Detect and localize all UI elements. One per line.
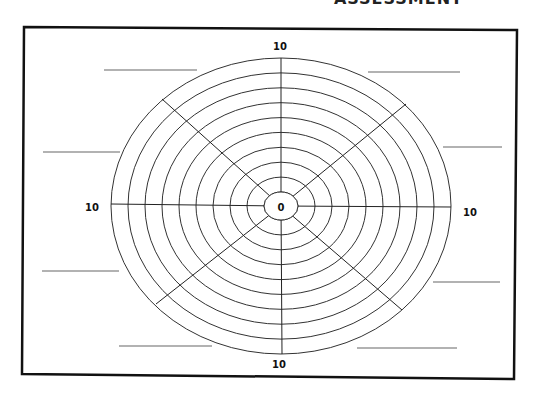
scale-label-right: 10 xyxy=(463,207,477,218)
spoke-bottom-left xyxy=(156,206,281,304)
spoke-top-left xyxy=(162,99,281,206)
scale-label-left: 10 xyxy=(85,202,99,213)
spoke-right xyxy=(281,206,451,207)
scale-label-bottom: 10 xyxy=(272,359,286,370)
scale-label-top: 10 xyxy=(273,41,287,52)
scale-label-center: 0 xyxy=(278,202,285,213)
spoke-bottom xyxy=(281,206,282,354)
wheel-worksheet: 0 10 10 10 10 xyxy=(0,0,535,398)
